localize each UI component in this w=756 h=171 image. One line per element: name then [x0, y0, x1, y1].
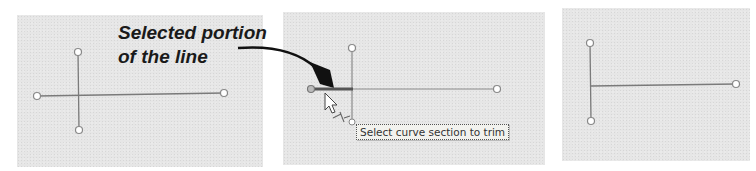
vertical-curve[interactable] — [590, 43, 591, 121]
callout-line-1: Selected portion — [118, 21, 267, 45]
control-point-icon[interactable] — [494, 86, 501, 93]
during-trim-curves — [308, 45, 501, 123]
callout-arrowhead-icon — [310, 62, 334, 88]
callout-line-2: of the line — [118, 45, 267, 69]
trim-tooltip: Select curve section to trim — [356, 124, 509, 140]
callout-label: Selected portion of the line — [118, 21, 267, 69]
control-point-icon[interactable] — [221, 90, 228, 97]
trimmed-horizontal-curve[interactable] — [591, 84, 736, 86]
vertical-curve[interactable] — [78, 52, 79, 130]
control-point-icon[interactable] — [308, 86, 315, 93]
drawing-canvas — [0, 0, 756, 171]
trim-cursor-icon — [325, 93, 355, 125]
horizontal-curve[interactable] — [37, 93, 224, 96]
control-point-icon[interactable] — [75, 49, 82, 56]
control-point-icon[interactable] — [349, 45, 356, 52]
control-point-icon[interactable] — [587, 40, 594, 47]
control-point-icon[interactable] — [34, 93, 41, 100]
control-point-icon[interactable] — [733, 81, 740, 88]
after-trim-curves — [587, 40, 740, 125]
control-point-icon[interactable] — [76, 127, 83, 134]
control-point-icon[interactable] — [588, 118, 595, 125]
